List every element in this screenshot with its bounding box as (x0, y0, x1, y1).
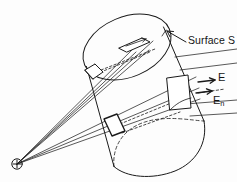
ray-4 (17, 52, 136, 164)
construction-line-mid (120, 101, 176, 124)
patch-left-lower (104, 114, 125, 136)
cylinder-bottom-back-arc-hidden (114, 118, 204, 166)
construction-line-top (96, 52, 150, 74)
vector-En-label-subscript: n (220, 99, 224, 108)
cylinder-bottom-front-arc (114, 121, 205, 176)
ray-ext-3 (186, 100, 237, 104)
gauss-law-diagram: Surface S E En (0, 0, 237, 182)
surface-s-touch-tick (162, 30, 166, 36)
ray-ext-2 (180, 63, 237, 70)
vector-En (196, 89, 212, 94)
construction-line-mid-2 (122, 112, 180, 133)
ray-ext-4 (190, 113, 237, 116)
patch-right-side (167, 75, 191, 110)
surface-s-label: Surface S (188, 35, 235, 46)
point-charge (12, 159, 22, 169)
patch-top-cap (119, 38, 150, 52)
vector-En-label: En (213, 95, 225, 106)
patch-right-side-outline (167, 75, 191, 110)
diagram-canvas (0, 0, 237, 182)
ray-1 (17, 42, 140, 164)
ray-ext-1 (175, 49, 237, 57)
patch-left-upper-outline (85, 64, 103, 79)
vector-E-label: E (218, 72, 225, 83)
patch-left-lower-outline (104, 114, 125, 136)
patch-left-upper (85, 64, 103, 79)
vector-E (198, 78, 215, 83)
ray-3 (17, 50, 149, 164)
